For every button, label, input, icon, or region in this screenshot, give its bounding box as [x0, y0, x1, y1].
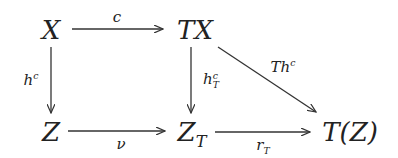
label-rT-sub: T [263, 145, 269, 156]
label-c-text: c [113, 8, 121, 26]
node-ZT: ZT [178, 119, 207, 145]
node-TZ: T(Z) [322, 119, 378, 145]
node-TX: TX [177, 17, 213, 43]
node-ZT-main: Z [178, 117, 196, 147]
label-c: c [113, 10, 121, 25]
label-Thc-sup: c [290, 57, 295, 68]
label-Thc: Thc [271, 60, 296, 75]
commutative-diagram: X TX Z ZT T(Z) c hc hcT Thc ν rT [0, 0, 398, 158]
label-nu: ν [116, 137, 125, 152]
label-hc-main: h [24, 71, 34, 89]
node-TX-text: TX [177, 15, 213, 45]
label-hcT-sub: T [213, 80, 219, 89]
label-hcT-main: h [203, 70, 213, 88]
label-hc: hc [24, 73, 39, 88]
node-ZT-sub: T [196, 132, 207, 151]
label-hcT: hcT [203, 71, 219, 90]
arrow-Thc [218, 47, 316, 112]
label-hc-sup: c [33, 70, 38, 81]
label-rT: rT [256, 138, 269, 153]
label-nu-text: ν [116, 135, 125, 153]
node-X: X [42, 17, 61, 43]
label-Thc-main: Th [271, 58, 291, 76]
node-X-text: X [42, 15, 61, 45]
node-Z: Z [42, 119, 60, 145]
node-TZ-text: T(Z) [322, 117, 378, 147]
node-Z-text: Z [42, 117, 60, 147]
